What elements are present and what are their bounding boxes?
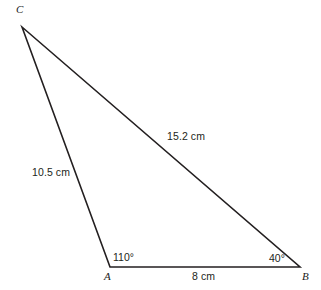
triangle-graphic xyxy=(0,0,321,290)
vertex-label-c: C xyxy=(16,4,23,15)
triangle-outline xyxy=(22,27,300,267)
vertex-label-b: B xyxy=(302,271,309,282)
triangle-diagram: C A B 10.5 cm 15.2 cm 8 cm 110° 40° xyxy=(0,0,321,290)
side-length-label-ca: 10.5 cm xyxy=(32,167,70,178)
angle-label-b: 40° xyxy=(269,253,285,264)
side-length-label-cb: 15.2 cm xyxy=(167,131,205,142)
side-length-label-ab: 8 cm xyxy=(192,271,215,282)
angle-label-a: 110° xyxy=(113,252,134,263)
vertex-label-a: A xyxy=(104,271,111,282)
